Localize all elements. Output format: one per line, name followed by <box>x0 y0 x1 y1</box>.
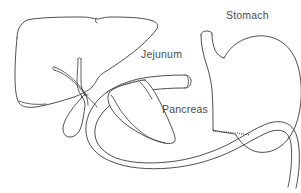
esophagus-stub-left-wall <box>201 35 213 130</box>
label-jejunum: Jejunum <box>141 48 182 60</box>
esophagus-stub-right-wall <box>212 34 224 58</box>
anatomy-illustration: Jejunum Pancreas Stomach <box>0 0 301 193</box>
jejunum-cut-end-inner <box>187 76 189 87</box>
label-stomach: Stomach <box>226 9 269 21</box>
bile-duct-to-duodenum <box>85 95 97 107</box>
gallbladder-outline <box>63 97 85 137</box>
label-pancreas: Pancreas <box>162 103 208 115</box>
anatomy-figure: Jejunum Pancreas Stomach <box>0 0 301 193</box>
stomach-antrum-wall <box>213 130 236 135</box>
esophagus-top-cap <box>201 31 212 35</box>
